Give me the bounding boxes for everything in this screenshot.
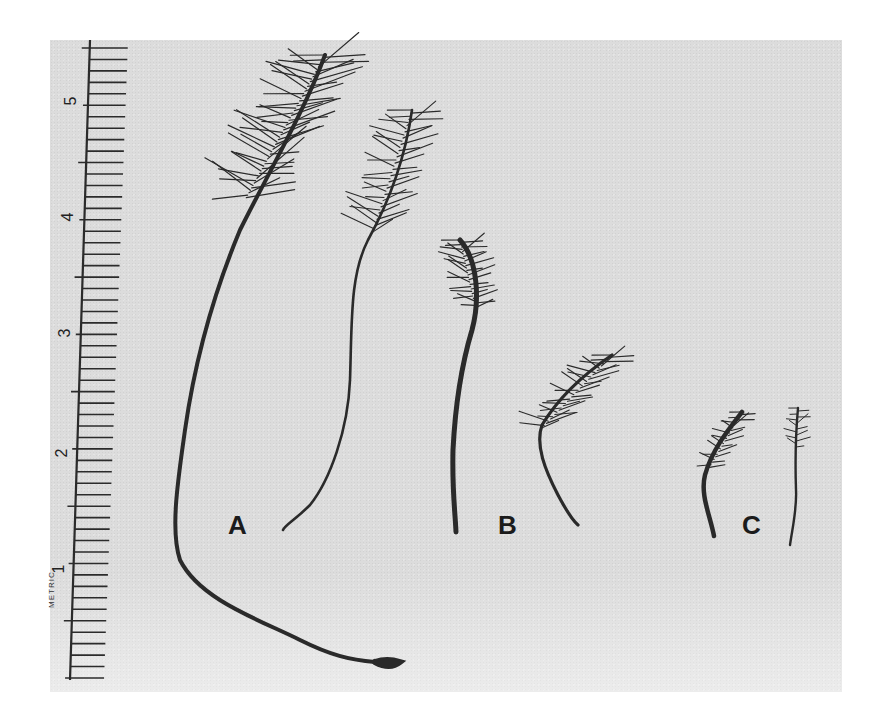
ruler-label-5: 5: [62, 97, 80, 106]
specimen-b1: [438, 233, 497, 532]
specimen-b2: [519, 346, 634, 525]
ruler-label-4: 4: [59, 213, 77, 222]
metric-ruler: [64, 40, 128, 680]
ruler-label-3: 3: [56, 329, 74, 338]
specimen-a1: [175, 33, 400, 666]
specimen-a2: [283, 101, 443, 530]
specimen-c2: [784, 408, 810, 545]
specimen-label-c: C: [742, 510, 761, 541]
ruler-unit-label: METRIC: [47, 571, 56, 608]
specimen-label-b: B: [498, 510, 517, 541]
ruler-label-2: 2: [53, 449, 71, 458]
specimen-illustration: [0, 0, 879, 725]
specimen-label-a: A: [228, 510, 247, 541]
